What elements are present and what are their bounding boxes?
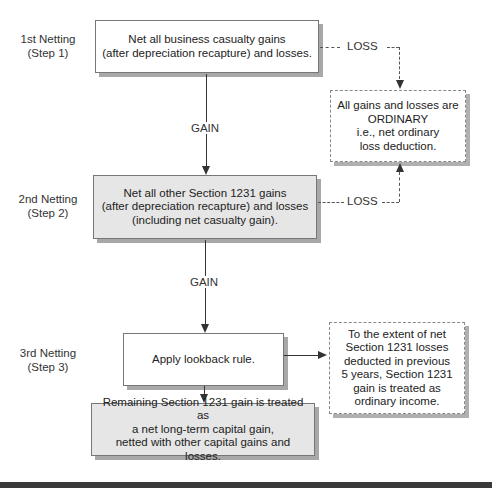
gain-1-connector <box>206 74 207 168</box>
loss-1-connector-right <box>387 47 399 48</box>
final-text-line: Remaining Section 1231 gain is treated a… <box>98 396 308 423</box>
lookback-text-line: 5 years, Section 1231 <box>341 368 452 382</box>
step-3-box: Apply lookback rule. <box>123 333 284 386</box>
ordinary-text-line: All gains and losses are <box>337 99 458 113</box>
step-1-label: 1st Netting (Step 1) <box>8 32 88 60</box>
lookback-result-box: To the extent of net Section 1231 losses… <box>329 322 465 414</box>
final-text-line: a net long-term capital gain, <box>98 423 308 437</box>
gain-1-label: GAIN <box>189 122 221 134</box>
loss-2-connector-up <box>399 172 400 202</box>
step-2-text-line: Net all other Section 1231 gains <box>102 187 308 201</box>
lookback-text-line: ordinary income. <box>341 395 452 409</box>
step-2-text-line: (after depreciation recapture) and losse… <box>102 200 308 214</box>
arrow-down-icon <box>201 324 209 333</box>
ordinary-text-line: loss deduction. <box>337 140 458 154</box>
step-2-box: Net all other Section 1231 gains (after … <box>93 175 317 239</box>
loss-1-connector <box>320 47 340 48</box>
arrow-down-icon <box>202 166 210 175</box>
ordinary-result-box: All gains and losses are ORDINARY i.e., … <box>330 90 466 162</box>
step-2-title: 2nd Netting <box>8 192 88 206</box>
step-3-label: 3rd Netting (Step 3) <box>8 346 88 374</box>
step-1-box: Net all business casualty gains (after d… <box>95 20 319 73</box>
ordinary-text-line: ORDINARY <box>337 113 458 127</box>
step-2-subtitle: (Step 2) <box>8 206 88 220</box>
step-3-text-line: Apply lookback rule. <box>152 353 255 367</box>
ordinary-text-line: i.e., net ordinary <box>337 126 458 140</box>
loss-2-label: LOSS <box>345 195 380 207</box>
final-text-line: netted with other capital gains and loss… <box>98 436 308 463</box>
step-1-text-line: (after depreciation recapture) and losse… <box>102 47 312 61</box>
step-2-label: 2nd Netting (Step 2) <box>8 192 88 220</box>
step-1-title: 1st Netting <box>8 32 88 46</box>
lookback-text-line: Section 1231 losses <box>341 341 452 355</box>
arrow-right-icon <box>318 351 327 359</box>
lookback-text-line: To the extent of net <box>341 328 452 342</box>
loss-2-connector-right <box>382 202 399 203</box>
step-1-subtitle: (Step 1) <box>8 46 88 60</box>
arrow-up-icon <box>396 163 404 172</box>
step-2-text-line: (including net casualty gain). <box>102 214 308 228</box>
arrow-down-icon <box>396 80 404 89</box>
final-result-box: Remaining Section 1231 gain is treated a… <box>91 403 315 456</box>
gain-2-label: GAIN <box>188 276 220 288</box>
loss-1-label: LOSS <box>345 40 380 52</box>
bottom-rule <box>0 482 492 488</box>
loss-2-connector <box>318 202 344 203</box>
lookback-text-line: deducted in previous <box>341 355 452 369</box>
step-3-subtitle: (Step 3) <box>8 360 88 374</box>
lookback-connector <box>284 355 320 356</box>
loss-1-connector-down <box>399 47 400 79</box>
lookback-text-line: gain is treated as <box>341 382 452 396</box>
step-3-title: 3rd Netting <box>8 346 88 360</box>
step-1-text-line: Net all business casualty gains <box>102 33 312 47</box>
